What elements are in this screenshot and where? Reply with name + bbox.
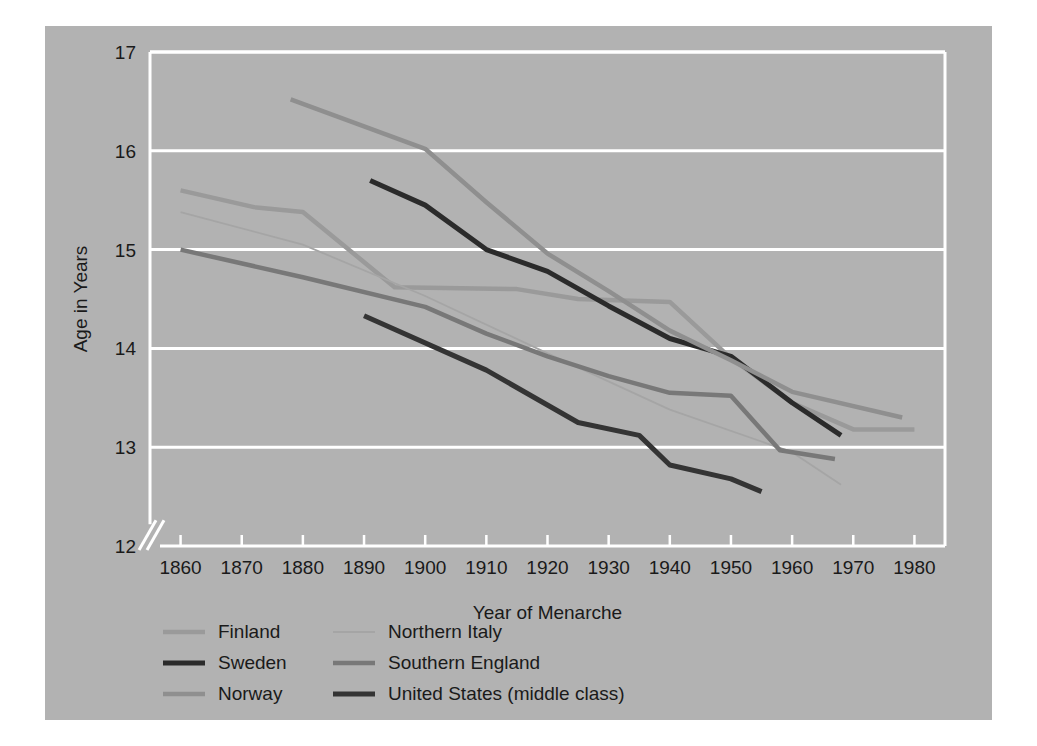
x-tick-label-1900: 1900 — [404, 557, 446, 578]
series-line-southern-england — [181, 250, 835, 459]
x-tick-label-1920: 1920 — [526, 557, 568, 578]
legend-label-united-states-middle-class: United States (middle class) — [388, 683, 625, 704]
x-tick-label-1880: 1880 — [282, 557, 324, 578]
series-line-sweden — [370, 180, 841, 435]
axis-ticks — [181, 535, 915, 546]
x-tick-label-1960: 1960 — [771, 557, 813, 578]
x-axis-tick-labels: 1860187018801890190019101920193019401950… — [159, 557, 935, 578]
y-tick-label-12: 12 — [115, 536, 136, 557]
y-axis-tick-labels: 121314151617 — [115, 42, 137, 557]
legend-label-sweden: Sweden — [218, 652, 287, 673]
x-tick-label-1860: 1860 — [159, 557, 201, 578]
chart-figure: 121314151617 186018701880189019001910192… — [45, 26, 992, 720]
legend-label-northern-italy: Northern Italy — [388, 621, 503, 642]
axis-lines — [139, 52, 945, 550]
y-tick-label-13: 13 — [115, 437, 136, 458]
y-tick-label-17: 17 — [115, 42, 136, 63]
line-chart: 121314151617 186018701880189019001910192… — [45, 26, 992, 720]
y-tick-label-16: 16 — [115, 141, 136, 162]
x-tick-label-1980: 1980 — [893, 557, 935, 578]
y-tick-label-15: 15 — [115, 240, 136, 261]
gridlines — [150, 52, 945, 447]
chart-legend: FinlandNorthern ItalySwedenSouthern Engl… — [163, 621, 625, 704]
legend-label-norway: Norway — [218, 683, 283, 704]
x-tick-label-1910: 1910 — [465, 557, 507, 578]
x-tick-label-1870: 1870 — [221, 557, 263, 578]
x-tick-label-1890: 1890 — [343, 557, 385, 578]
y-tick-label-14: 14 — [115, 338, 137, 359]
data-series — [181, 99, 915, 491]
legend-label-southern-england: Southern England — [388, 652, 540, 673]
axis-break-mark-1 — [139, 520, 156, 550]
x-tick-label-1930: 1930 — [588, 557, 630, 578]
y-axis-title: Age in Years — [70, 246, 91, 353]
x-tick-label-1950: 1950 — [710, 557, 752, 578]
legend-label-finland: Finland — [218, 621, 280, 642]
series-line-united-states-middle-class — [364, 316, 761, 492]
x-axis-title: Year of Menarche — [473, 602, 622, 623]
x-tick-label-1940: 1940 — [649, 557, 691, 578]
x-tick-label-1970: 1970 — [832, 557, 874, 578]
